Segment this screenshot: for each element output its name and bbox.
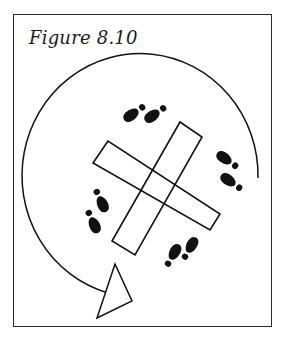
figure-8-10: Figure 8.10	[0, 0, 289, 350]
footprints-top	[121, 101, 169, 125]
footprints-right	[214, 149, 245, 194]
footprints-bottom	[162, 235, 201, 269]
diagram-canvas	[0, 0, 289, 350]
footprints-left	[83, 187, 111, 235]
rotation-arc	[22, 54, 258, 293]
cross-shape	[93, 122, 220, 255]
cross-bar-b	[112, 122, 202, 255]
